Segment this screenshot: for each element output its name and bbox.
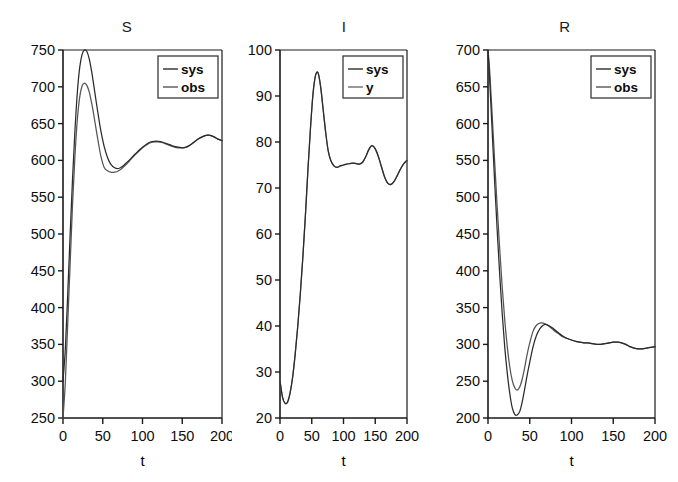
svg-text:50: 50 bbox=[95, 428, 111, 444]
svg-text:50: 50 bbox=[304, 428, 320, 444]
svg-text:0: 0 bbox=[59, 428, 67, 444]
svg-text:obs: obs bbox=[181, 80, 205, 95]
svg-text:150: 150 bbox=[363, 428, 387, 444]
svg-text:y: y bbox=[366, 80, 374, 95]
svg-text:650: 650 bbox=[456, 79, 480, 95]
svg-text:450: 450 bbox=[31, 263, 55, 279]
svg-text:50: 50 bbox=[256, 272, 272, 288]
svg-text:400: 400 bbox=[31, 300, 55, 316]
svg-text:100: 100 bbox=[130, 428, 154, 444]
svg-text:250: 250 bbox=[31, 410, 55, 426]
svg-text:100: 100 bbox=[331, 428, 355, 444]
panel-i: I 2030405060708090100050100150200sysy t bbox=[232, 0, 440, 482]
svg-text:200: 200 bbox=[210, 428, 232, 444]
svg-text:700: 700 bbox=[456, 42, 480, 58]
svg-text:obs: obs bbox=[614, 80, 638, 95]
x-axis-label-r: t bbox=[532, 452, 612, 469]
plot-area-i: 2030405060708090100050100150200sysy bbox=[232, 0, 440, 482]
svg-text:60: 60 bbox=[256, 226, 272, 242]
svg-text:600: 600 bbox=[456, 116, 480, 132]
svg-text:90: 90 bbox=[256, 88, 272, 104]
svg-text:600: 600 bbox=[31, 152, 55, 168]
svg-text:200: 200 bbox=[456, 410, 480, 426]
svg-text:20: 20 bbox=[256, 410, 272, 426]
svg-text:550: 550 bbox=[456, 152, 480, 168]
svg-text:sys: sys bbox=[181, 62, 204, 77]
svg-text:150: 150 bbox=[170, 428, 194, 444]
svg-text:100: 100 bbox=[248, 42, 272, 58]
svg-text:100: 100 bbox=[559, 428, 583, 444]
svg-text:500: 500 bbox=[456, 189, 480, 205]
panel-s: S 25030035040045050055060065070075005010… bbox=[0, 0, 232, 482]
panel-r: R 20025030035040045050055060065070005010… bbox=[440, 0, 678, 482]
plot-area-r: 2002503003504004505005506006507000501001… bbox=[440, 0, 678, 482]
svg-text:sys: sys bbox=[366, 62, 389, 77]
svg-text:750: 750 bbox=[31, 42, 55, 58]
svg-text:sys: sys bbox=[614, 62, 637, 77]
svg-text:300: 300 bbox=[31, 373, 55, 389]
svg-text:450: 450 bbox=[456, 226, 480, 242]
figure-container: S 25030035040045050055060065070075005010… bbox=[0, 0, 678, 482]
svg-text:550: 550 bbox=[31, 189, 55, 205]
svg-text:700: 700 bbox=[31, 79, 55, 95]
svg-text:650: 650 bbox=[31, 116, 55, 132]
x-axis-label-i: t bbox=[304, 452, 384, 469]
svg-text:70: 70 bbox=[256, 180, 272, 196]
svg-text:500: 500 bbox=[31, 226, 55, 242]
svg-text:350: 350 bbox=[31, 336, 55, 352]
svg-text:300: 300 bbox=[456, 336, 480, 352]
x-axis-label-s: t bbox=[103, 452, 183, 469]
svg-text:0: 0 bbox=[484, 428, 492, 444]
svg-text:200: 200 bbox=[395, 428, 419, 444]
svg-text:250: 250 bbox=[456, 373, 480, 389]
svg-text:0: 0 bbox=[276, 428, 284, 444]
svg-text:150: 150 bbox=[601, 428, 625, 444]
svg-text:30: 30 bbox=[256, 364, 272, 380]
svg-text:80: 80 bbox=[256, 134, 272, 150]
svg-text:200: 200 bbox=[643, 428, 667, 444]
svg-text:350: 350 bbox=[456, 300, 480, 316]
svg-text:40: 40 bbox=[256, 318, 272, 334]
svg-text:50: 50 bbox=[522, 428, 538, 444]
plot-area-s: 2503003504004505005506006507007500501001… bbox=[0, 0, 232, 482]
svg-text:400: 400 bbox=[456, 263, 480, 279]
